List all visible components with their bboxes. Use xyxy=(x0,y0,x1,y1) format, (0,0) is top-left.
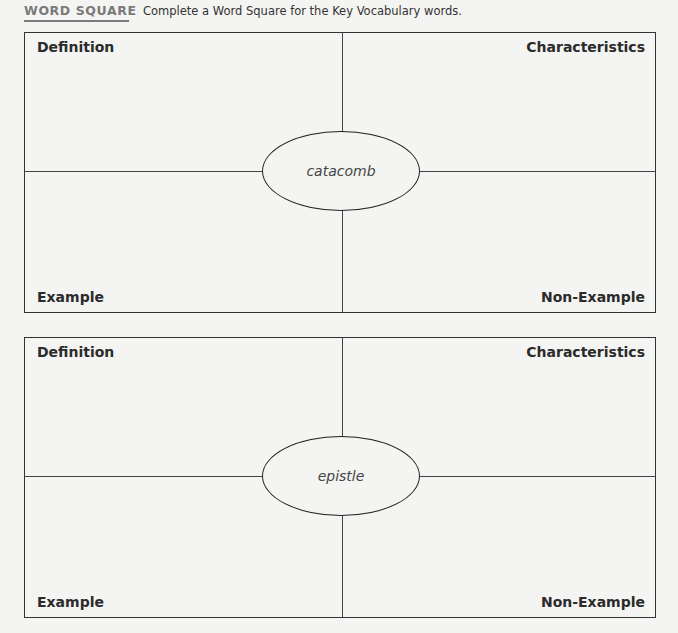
vocabulary-word-ellipse: epistle xyxy=(262,436,420,516)
vocabulary-word: epistle xyxy=(318,468,365,484)
non-example-label: Non-Example xyxy=(541,594,645,610)
word-square-tag: WORD SQUARE xyxy=(24,0,129,22)
instruction-text: Complete a Word Square for the Key Vocab… xyxy=(143,0,462,18)
vocabulary-word: catacomb xyxy=(306,163,375,179)
definition-label: Definition xyxy=(37,344,114,360)
non-example-label: Non-Example xyxy=(541,289,645,305)
word-square-catacomb: Definition Characteristics Example Non-E… xyxy=(24,32,656,313)
characteristics-label: Characteristics xyxy=(526,344,645,360)
definition-label: Definition xyxy=(37,39,114,55)
example-label: Example xyxy=(37,594,104,610)
word-square-epistle: Definition Characteristics Example Non-E… xyxy=(24,337,656,618)
characteristics-label: Characteristics xyxy=(526,39,645,55)
page-header: WORD SQUARE Complete a Word Square for t… xyxy=(24,0,462,22)
example-label: Example xyxy=(37,289,104,305)
vocabulary-word-ellipse: catacomb xyxy=(262,131,420,211)
